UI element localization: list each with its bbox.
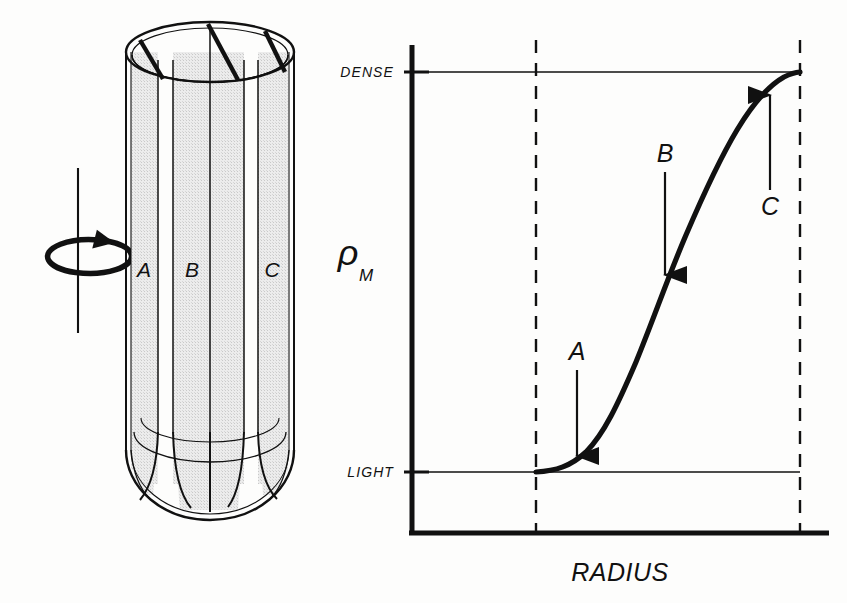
y-axis-label: ρ M bbox=[337, 232, 374, 285]
cylinder-band-label-b: B bbox=[185, 258, 199, 281]
figure-canvas: A B C A bbox=[0, 0, 847, 603]
rotation-arrow-icon bbox=[48, 226, 132, 273]
y-tick-label-dense: DENSE bbox=[340, 64, 394, 80]
density-curve bbox=[536, 72, 800, 472]
cylinder-band-label-a: A bbox=[135, 258, 151, 281]
annotation-b: B bbox=[657, 139, 674, 275]
y-tick-label-light: LIGHT bbox=[347, 464, 394, 480]
cylinder-band-label-c: C bbox=[264, 258, 280, 281]
annotation-a-label: A bbox=[567, 337, 586, 365]
annotation-a: A bbox=[567, 337, 586, 456]
annotation-c-label: C bbox=[761, 192, 780, 220]
annotation-c: C bbox=[761, 95, 780, 220]
y-axis-label-rho: ρ bbox=[337, 232, 359, 273]
cylinder-band-b bbox=[173, 44, 244, 484]
y-axis-label-subscript: M bbox=[359, 266, 374, 285]
x-axis-label: RADIUS bbox=[571, 558, 668, 586]
density-radius-chart: A B C DENSE LIGHT ρ M RADIUS bbox=[337, 40, 829, 586]
rotating-cylinder-diagram: A B C bbox=[48, 22, 294, 520]
annotation-b-label: B bbox=[657, 139, 674, 167]
figure-root: A B C A bbox=[0, 0, 847, 603]
